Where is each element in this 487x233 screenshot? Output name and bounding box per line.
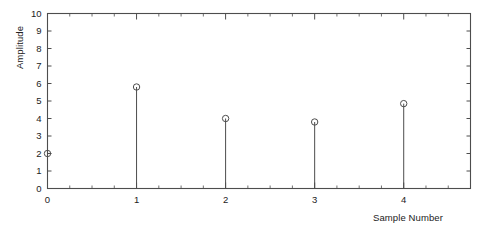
stem-plot-figure: Amplitude Sample Number 012345678910 012… [0, 0, 487, 233]
x-tick-label: 4 [401, 194, 406, 205]
y-tick-label: 5 [36, 95, 41, 106]
y-tick-label: 4 [36, 113, 41, 124]
x-tick-label: 0 [45, 194, 50, 205]
plot-frame [48, 14, 471, 189]
x-tick-label: 1 [134, 194, 139, 205]
y-tick-label: 10 [31, 8, 42, 19]
x-tick-label: 3 [312, 194, 317, 205]
y-tick-label: 6 [36, 78, 41, 89]
y-tick-label: 7 [36, 60, 41, 71]
axes-group [48, 14, 471, 189]
y-tick-label: 0 [36, 183, 41, 194]
y-tick-label: 8 [36, 43, 41, 54]
y-tick-label: 3 [36, 130, 41, 141]
y-tick-label: 9 [36, 25, 41, 36]
x-tick-label: 2 [223, 194, 228, 205]
y-tick-label: 2 [36, 148, 41, 159]
plot-canvas: 012345678910 01234 [0, 0, 487, 233]
y-tick-label: 1 [36, 165, 41, 176]
